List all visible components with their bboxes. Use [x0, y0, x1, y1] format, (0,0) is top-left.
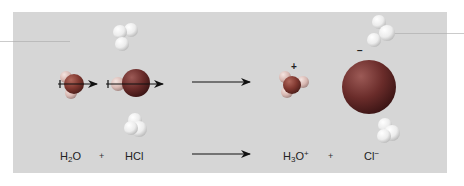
product-hydronium-label: H3O+: [283, 150, 309, 162]
reactant-water-o: O: [72, 150, 81, 162]
water-molecule: [60, 71, 84, 99]
product-hydronium-h: H: [283, 150, 291, 162]
plus-sign-reactants: +: [99, 151, 104, 161]
reactant-hcl-label: HCl: [125, 150, 143, 162]
hydronium-ion: [279, 71, 309, 98]
water-molecule-bottom-right: [377, 118, 400, 143]
water-molecule-bottom-left: [124, 113, 147, 137]
product-chloride-charge: −: [374, 149, 379, 158]
product-hydronium-o: O: [295, 150, 304, 162]
plus-sign-products: +: [328, 151, 333, 161]
water-molecule-top-right: [367, 15, 395, 47]
product-chloride-symbol: Cl: [364, 150, 374, 162]
hydronium-charge: +: [291, 62, 297, 72]
product-chloride-label: Cl−: [364, 150, 379, 162]
chloride-charge: −: [357, 46, 363, 56]
hcl-molecule: [111, 69, 150, 97]
reactant-water-label: H2O: [60, 150, 81, 162]
chloride-ion: [342, 60, 396, 114]
water-molecule-top: [113, 23, 138, 51]
product-hydronium-charge: +: [304, 149, 309, 158]
reactant-water-h: H: [60, 150, 68, 162]
